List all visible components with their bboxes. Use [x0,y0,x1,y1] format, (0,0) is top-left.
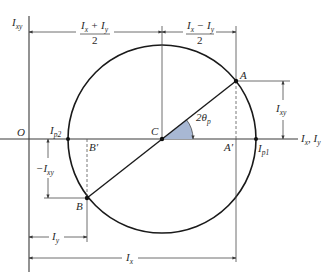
label-Ip2: Ip2 [49,124,61,139]
point-Ip2 [66,137,70,141]
dim-negIxy-label: −Ixy [36,162,54,177]
mohrs-circle-diagram: Ixy Ix, Iy O 2θp C A B A′ B′ Ip1 Ip2 Ix … [0,0,330,279]
point-B [85,196,89,200]
point-Ip1 [254,137,258,141]
horizontal-axis-label: Ix, Iy [300,132,321,147]
dim-Ix-label: Ix [125,251,134,266]
label-Ip1: Ip1 [257,142,269,157]
label-A-prime: A′ [223,141,234,153]
dim-avg-denominator: 2 [92,34,98,46]
dim-avg-numerator: Ix + Iy [80,19,109,34]
vertical-axis-label: Ixy [11,16,23,31]
label-C: C [151,125,159,137]
dim-halfdiff-denominator: 2 [197,34,203,46]
origin-label: O [17,126,25,138]
dim-Iy-label: Iy [51,230,60,245]
point-A [234,79,238,83]
label-A: A [239,69,247,81]
point-C [160,137,164,141]
label-B: B [76,200,83,212]
dim-Ixy-label: Ixy [275,102,287,117]
dim-halfdiff-numerator: Ix − Iy [186,19,215,34]
angle-label: 2θp [196,111,211,126]
label-B-prime: B′ [89,141,99,153]
